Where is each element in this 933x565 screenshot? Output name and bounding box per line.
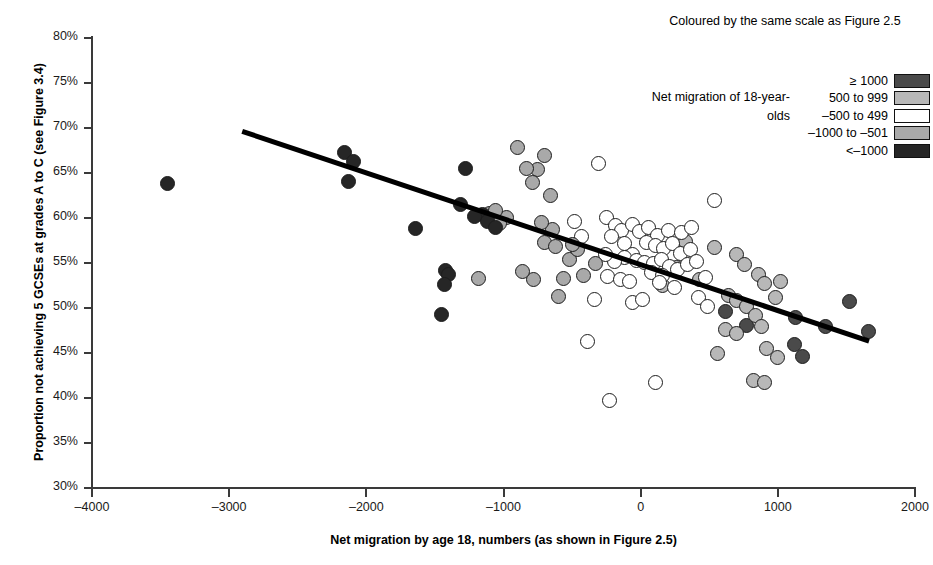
legend-entry: –1000 to –501 [795,125,930,143]
scatter-point [471,271,486,286]
legend-entry: 500 to 999 [795,90,930,108]
scatter-point [842,294,857,309]
x-tick-label: –4000 [47,500,137,514]
scatter-point [707,240,722,255]
legend-entry-label: ≥ 1000 [850,74,888,88]
scatter-point [622,274,637,289]
legend-entry: ≥ 1000 [795,72,930,90]
x-tick-label: 1000 [733,500,823,514]
x-tick [914,489,916,497]
scatter-point [635,292,650,307]
scatter-point [515,264,530,279]
y-tick-label: 35% [8,434,78,448]
scatter-point [710,346,725,361]
y-tick-label: 50% [8,299,78,313]
scatter-point [580,334,595,349]
legend-entry: <–1000 [795,142,930,160]
x-tick-label: –3000 [184,500,274,514]
scatter-point [160,176,175,191]
legend-swatch [894,144,930,158]
y-tick [84,397,92,399]
scatter-point [795,349,810,364]
scatter-point [341,174,356,189]
x-tick [640,489,642,497]
legend-entries: ≥ 1000500 to 999–500 to 499–1000 to –501… [795,72,930,160]
scatter-point [768,290,783,305]
scatter-point [757,276,772,291]
scatter-point [757,375,772,390]
scatter-point [729,326,744,341]
y-tick-label: 70% [8,119,78,133]
scatter-point [567,214,582,229]
x-tick [777,489,779,497]
x-tick [365,489,367,497]
scatter-point [591,156,606,171]
y-tick-label: 55% [8,254,78,268]
scatter-point [770,350,785,365]
y-tick-label: 80% [8,29,78,43]
legend-swatch [894,126,930,140]
scatter-point [602,393,617,408]
scatter-point [437,277,452,292]
y-tick-label: 75% [8,74,78,88]
y-tick-label: 30% [8,479,78,493]
scatter-point [707,193,722,208]
legend-side-label: Net migration of 18-year-olds [640,88,790,126]
legend-swatch [894,109,930,123]
scatter-point [700,299,715,314]
y-tick [84,37,92,39]
x-tick-label: 2000 [870,500,933,514]
scatter-point [551,289,566,304]
legend-entry-label: 500 to 999 [829,91,888,105]
scatter-point [754,319,769,334]
legend: Coloured by the same scale as Figure 2.5… [640,6,930,166]
legend-swatch [894,74,930,88]
scatter-point [510,140,525,155]
scatter-point [648,375,663,390]
scatter-point [588,256,603,271]
x-tick [503,489,505,497]
scatter-point [737,257,752,272]
x-tick-label: 0 [596,500,686,514]
scatter-point [525,175,540,190]
scatter-point [684,220,699,235]
legend-entry-label: –1000 to –501 [808,126,888,140]
scatter-point [667,280,682,295]
scatter-point [587,292,602,307]
y-tick [84,352,92,354]
scatter-point [576,268,591,283]
scatter-point [689,254,704,269]
scatter-point [537,148,552,163]
scatter-point [548,239,563,254]
figure-container: Proportion not achieving 5 GCSEs at grad… [0,0,933,565]
scatter-point [773,274,788,289]
legend-entry-label: –500 to 499 [822,109,888,123]
legend-swatch [894,91,930,105]
scatter-point [543,188,558,203]
y-tick [84,307,92,309]
scatter-point [458,161,473,176]
y-tick [84,82,92,84]
scatter-point [556,271,571,286]
y-tick [84,217,92,219]
y-tick-label: 60% [8,209,78,223]
y-tick [84,262,92,264]
x-tick [91,489,93,497]
y-tick-label: 40% [8,389,78,403]
x-axis-label: Net migration by age 18, numbers (as sho… [92,533,915,547]
scatter-point [434,307,449,322]
y-tick [84,442,92,444]
x-tick [228,489,230,497]
legend-entry: –500 to 499 [795,107,930,125]
x-tick-label: –2000 [321,500,411,514]
x-tick-label: –1000 [459,500,549,514]
y-tick [84,127,92,129]
scatter-point [408,221,423,236]
y-tick-label: 65% [8,164,78,178]
scatter-point [488,220,503,235]
legend-title: Coloured by the same scale as Figure 2.5 [640,12,930,31]
legend-entry-label: <–1000 [846,144,888,158]
y-tick [84,172,92,174]
y-tick-label: 45% [8,344,78,358]
